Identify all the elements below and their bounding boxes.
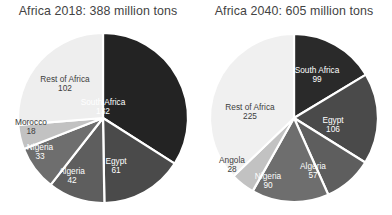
pie-chart-2040: South Africa99Egypt106Algeria57Nigeria90… <box>196 0 392 215</box>
pie-svg <box>196 0 392 215</box>
pie-svg <box>0 0 196 215</box>
pie-chart-2018: South Africa132Egypt61Algeria42Nigeria33… <box>0 0 196 215</box>
pie-slice-rest-of-africa[interactable] <box>18 33 103 125</box>
chart-panel-2018: Africa 2018: 388 million tons South Afri… <box>0 0 196 215</box>
chart-panel-2040: Africa 2040: 605 million tons South Afri… <box>196 0 392 215</box>
pie-chart-figure: Africa 2018: 388 million tons South Afri… <box>0 0 392 215</box>
